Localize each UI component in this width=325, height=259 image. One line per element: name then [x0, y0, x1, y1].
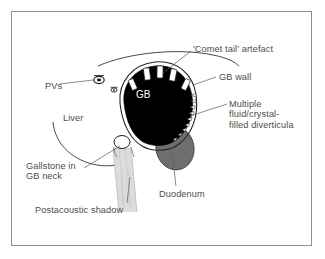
- label-comet-tail-artefact: 'Comet tail' artefact: [193, 44, 273, 54]
- label-liver: Liver: [63, 113, 83, 123]
- label-gb-wall: GB wall: [219, 72, 251, 82]
- label-gb-lumen: GB: [136, 89, 150, 100]
- leader-multiple-diverticula: [190, 104, 227, 116]
- label-postacoustic-shadow: Postacoustic shadow: [35, 205, 123, 215]
- leader-gb-wall: [193, 77, 216, 85]
- liver-inferior-edge-arc: [53, 122, 122, 166]
- label-pvs: PVs: [45, 81, 62, 91]
- label-multiple-diverticula: Multiple fluid/crystal- filled diverticu…: [229, 99, 294, 130]
- figure-canvas: 'Comet tail' artefact GB wall Multiple f…: [0, 0, 325, 259]
- leader-pvs: [60, 80, 93, 84]
- portal-vein-large: [94, 76, 104, 84]
- label-gallstone-gb-neck: Gallstone in GB neck: [26, 161, 76, 182]
- label-duodenum: Duodenum: [159, 189, 205, 199]
- portal-vein-small: [111, 87, 118, 92]
- postacoustic-shadow-band: [113, 148, 137, 212]
- gallstone-shape: [114, 136, 130, 149]
